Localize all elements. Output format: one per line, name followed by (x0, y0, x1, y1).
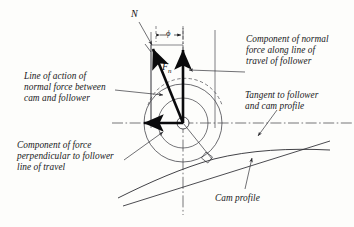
force-subscript-text: n (168, 67, 172, 75)
pressure-angle-symbol-label: ϕ (166, 28, 170, 38)
annotation-line-of-action: Line of action of normal force between c… (24, 71, 106, 105)
leader-cam-profile (245, 158, 252, 189)
annotation-component-along-travel: Component of normal force along line of … (246, 34, 329, 68)
normal-force-symbol-label: Fn (162, 61, 172, 75)
annotation-tangent: Tangent to follower and cam profile (245, 90, 318, 112)
normal-line-symbol-label: N (131, 8, 138, 19)
annotation-cam-profile: Cam profile (215, 193, 260, 204)
leader-perpendicular-component (124, 132, 163, 160)
annotation-perpendicular-component: Component of force perpendicular to foll… (17, 140, 114, 174)
figure-canvas: N ϕ Fn Component of normal force along l… (0, 0, 354, 227)
leader-line-of-action (115, 90, 163, 95)
cam-profile-curve (118, 149, 330, 198)
leader-component-along-travel (189, 70, 245, 72)
leader-normal-line (139, 22, 152, 45)
line-of-action-extension (145, 44, 212, 159)
pitch-circle-dashed-arc (148, 78, 222, 105)
